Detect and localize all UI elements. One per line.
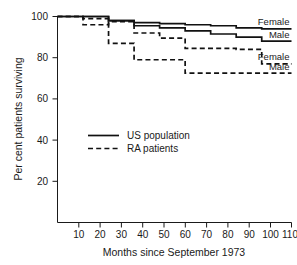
x-tick-label-110: 110	[282, 229, 297, 240]
y-axis-tick-labels: 100 80 60 40 20	[31, 11, 48, 187]
curve-end-label-us-female: Female	[258, 16, 290, 27]
x-tick-label-70: 70	[201, 229, 213, 240]
curve-end-label-us-male: Male	[269, 29, 290, 40]
y-axis-title: Per cent patients surviving	[12, 57, 24, 180]
legend: US population RA patients	[88, 130, 190, 154]
x-axis-tick-labels: 10 20 30 40 50 60 70 80 90 100 110	[73, 229, 297, 240]
y-tick-label-40: 40	[37, 135, 49, 146]
y-tick-label-100: 100	[31, 11, 48, 22]
x-tick-label-90: 90	[244, 229, 256, 240]
y-tick-label-20: 20	[37, 176, 49, 187]
x-tick-label-50: 50	[158, 229, 170, 240]
x-tick-label-100: 100	[262, 229, 279, 240]
legend-label-ra-patients: RA patients	[127, 143, 178, 154]
x-tick-label-20: 20	[95, 229, 107, 240]
y-axis-ticks	[53, 17, 58, 182]
x-tick-label-60: 60	[180, 229, 192, 240]
x-axis-ticks	[79, 223, 292, 228]
x-tick-label-40: 40	[137, 229, 149, 240]
legend-label-us-population: US population	[127, 130, 190, 141]
x-axis-title: Months since September 1973	[103, 246, 246, 258]
x-tick-label-80: 80	[222, 229, 234, 240]
data-curves	[58, 17, 292, 74]
curve-us-population-male	[58, 17, 292, 42]
y-tick-label-80: 80	[37, 52, 49, 63]
survival-chart: 100 80 60 40 20 10 20 30 40 50 60 70 80 …	[0, 0, 297, 265]
curve-end-label-ra-male: Male	[269, 61, 290, 72]
x-tick-label-30: 30	[116, 229, 128, 240]
x-tick-label-10: 10	[73, 229, 85, 240]
axes	[58, 17, 292, 223]
y-tick-label-60: 60	[37, 93, 49, 104]
